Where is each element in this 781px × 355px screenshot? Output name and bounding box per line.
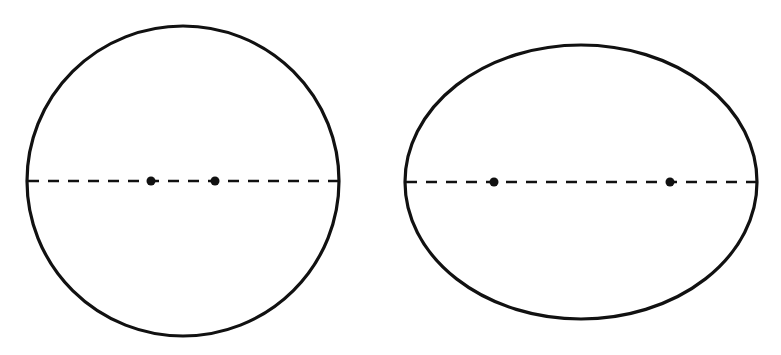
- ellipse-focus-right: [666, 178, 675, 187]
- ellipse-figure: [405, 45, 757, 319]
- diagram-canvas: [0, 0, 781, 355]
- ellipse-focus-left: [490, 178, 499, 187]
- circle-figure: [27, 26, 339, 336]
- ellipse-outline: [405, 45, 757, 319]
- circle-focus-right: [211, 177, 220, 186]
- circle-focus-left: [147, 177, 156, 186]
